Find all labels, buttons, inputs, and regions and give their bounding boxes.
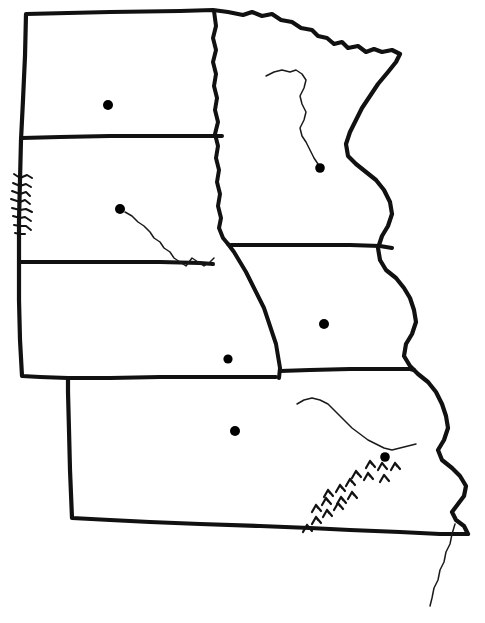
- black-hills-hachure-8: [15, 233, 25, 234]
- capital-dot-jefferson-city[interactable]: [380, 452, 390, 462]
- border-ne-ks: [68, 377, 276, 378]
- map-canvas: [0, 0, 485, 623]
- capital-dot-lincoln[interactable]: [223, 354, 232, 363]
- region-outer-boundary: [19, 10, 468, 534]
- capital-dot-pierre[interactable]: [115, 204, 125, 214]
- capital-dot-saint-paul[interactable]: [315, 163, 325, 173]
- border-sd-ne: [20, 262, 213, 264]
- outline-map-svg: [0, 0, 485, 623]
- border-iowa-missouri: [280, 369, 414, 371]
- border-nd-sd: [22, 136, 222, 138]
- capital-dot-des-moines[interactable]: [319, 319, 329, 329]
- region-outline-group: [19, 10, 468, 534]
- capital-dot-bismarck[interactable]: [103, 100, 113, 110]
- river-mississippi-lower: [430, 524, 455, 606]
- capital-dot-topeka[interactable]: [230, 426, 240, 436]
